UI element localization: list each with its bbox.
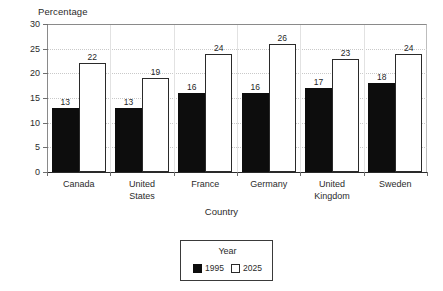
y-tick-mark [43, 73, 48, 74]
x-tick-mark [47, 172, 48, 176]
bar-sweden-2025 [395, 54, 422, 172]
x-tick-mark [237, 172, 238, 176]
bar-value-label: 26 [277, 33, 286, 43]
legend-swatch-icon [231, 264, 240, 273]
bar-sweden-1995 [368, 83, 395, 172]
group-separator [110, 25, 111, 172]
y-tick-label: 30 [18, 19, 40, 29]
group-separator [364, 25, 365, 172]
y-tick-label: 20 [18, 68, 40, 78]
legend-swatch-icon [193, 264, 202, 273]
bar-united-states-2025 [142, 78, 169, 172]
bar-value-label: 24 [404, 43, 413, 53]
y-tick-label: 0 [18, 167, 40, 177]
x-tick-mark [364, 172, 365, 176]
y-tick-label: 15 [18, 93, 40, 103]
x-tick-mark [300, 172, 301, 176]
y-tick-label: 25 [18, 44, 40, 54]
y-tick-mark [43, 147, 48, 148]
y-tick-label: 5 [18, 142, 40, 152]
x-tick-mark [110, 172, 111, 176]
legend-label: 1995 [205, 263, 224, 273]
bar-united-kingdom-1995 [305, 88, 332, 172]
y-tick-mark [43, 49, 48, 50]
y-tick-label: 10 [18, 118, 40, 128]
legend: Year 19952025 [180, 240, 273, 281]
bar-united-states-1995 [115, 108, 142, 172]
bar-chart: Percentage 051015202530 1322131916241626… [0, 0, 443, 291]
bar-canada-1995 [52, 108, 79, 172]
bar-value-label: 23 [341, 48, 350, 58]
group-separator [300, 25, 301, 172]
bar-value-label: 16 [250, 82, 259, 92]
y-axis-title: Percentage [38, 6, 88, 17]
bar-france-1995 [178, 93, 205, 172]
y-tick-mark [43, 24, 48, 25]
y-tick-mark [43, 98, 48, 99]
x-category-label: Sweden [354, 179, 437, 191]
bar-value-label: 22 [87, 52, 96, 62]
legend-entry-2025: 2025 [231, 263, 262, 273]
bar-france-2025 [205, 54, 232, 172]
bar-value-label: 13 [60, 97, 69, 107]
bar-value-label: 18 [377, 72, 386, 82]
bar-value-label: 16 [187, 82, 196, 92]
legend-entry-1995: 1995 [193, 263, 224, 273]
bar-value-label: 19 [151, 67, 160, 77]
bar-germany-2025 [269, 44, 296, 172]
bar-germany-1995 [242, 93, 269, 172]
group-separator [174, 25, 175, 172]
bar-value-label: 13 [124, 97, 133, 107]
legend-items: 19952025 [181, 263, 274, 273]
x-tick-mark [174, 172, 175, 176]
bar-united-kingdom-2025 [332, 59, 359, 172]
bar-value-label: 17 [314, 77, 323, 87]
legend-label: 2025 [243, 263, 262, 273]
bar-canada-2025 [79, 63, 106, 172]
x-tick-mark [427, 172, 428, 176]
x-axis-title: Country [0, 206, 443, 217]
group-separator [237, 25, 238, 172]
bar-value-label: 24 [214, 43, 223, 53]
legend-title: Year [181, 246, 274, 256]
y-tick-mark [43, 123, 48, 124]
